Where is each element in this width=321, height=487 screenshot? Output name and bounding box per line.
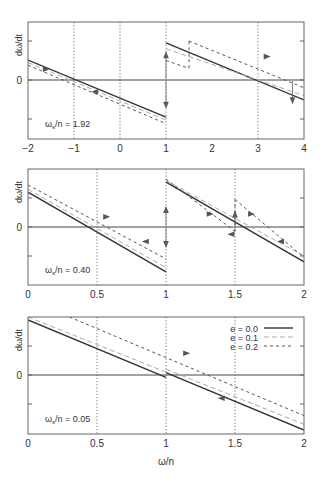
direction-arrow-icon <box>183 350 190 356</box>
series-line <box>166 369 304 424</box>
direction-arrow-icon <box>103 214 110 220</box>
series-line <box>189 41 304 88</box>
x-tick-label: 2 <box>209 143 215 154</box>
series-line <box>28 317 166 372</box>
panel-1: 0−2−101234dω/dtωs/n = 1.92 <box>14 22 307 154</box>
y-tick-label: 0 <box>16 75 22 86</box>
direction-arrow-icon <box>264 54 271 60</box>
y-axis-label: dω/dt <box>14 328 24 351</box>
legend-label: e = 0.2 <box>230 342 258 352</box>
series-line <box>28 65 166 124</box>
x-axis-label: ω/n <box>158 456 174 467</box>
series-line <box>28 185 166 259</box>
x-tick-label: −2 <box>22 143 34 154</box>
x-tick-label: 0 <box>25 289 31 300</box>
panel-3: 000.511.52dω/dtωs/n = 0.05e = 0.0e = 0.1… <box>14 317 307 449</box>
direction-arrow-icon <box>227 231 234 237</box>
x-tick-label: 1 <box>163 438 169 449</box>
x-tick-label: 1 <box>163 143 169 154</box>
x-tick-label: −1 <box>68 143 80 154</box>
legend: e = 0.0e = 0.1e = 0.2 <box>230 324 293 352</box>
x-tick-label: 0.5 <box>90 289 104 300</box>
y-tick-label: 0 <box>16 222 22 233</box>
y-axis-label: dω/dt <box>14 33 24 56</box>
x-tick-label: 0 <box>117 143 123 154</box>
parameter-annotation: ωs/n = 1.92 <box>45 119 90 130</box>
series-line <box>69 317 304 416</box>
annotation-rest: /n = 0.05 <box>55 414 90 424</box>
x-tick-label: 0 <box>25 438 31 449</box>
x-tick-label: 2 <box>301 289 307 300</box>
x-tick-label: 1 <box>163 289 169 300</box>
series-line <box>166 49 304 96</box>
parameter-annotation: ωs/n = 0.05 <box>45 414 90 425</box>
annotation-rest: /n = 0.40 <box>55 265 90 275</box>
figure: 0−2−101234dω/dtωs/n = 1.92 000.511.52dω/… <box>0 0 321 487</box>
x-tick-label: 0.5 <box>90 438 104 449</box>
annotation-rest: /n = 1.92 <box>55 119 90 129</box>
x-tick-label: 1.5 <box>228 289 242 300</box>
annotation-omega: ω <box>45 119 52 129</box>
parameter-annotation: ωs/n = 0.40 <box>45 265 90 276</box>
y-tick-label: 0 <box>16 370 22 381</box>
direction-arrow-icon <box>142 239 149 245</box>
annotation-omega: ω <box>45 265 52 275</box>
series-line <box>28 192 166 272</box>
annotation-omega: ω <box>45 414 52 424</box>
x-tick-label: 2 <box>301 438 307 449</box>
series-line <box>166 61 189 69</box>
panel-2: 000.511.52dω/dtωs/n = 0.40 <box>14 169 307 300</box>
x-tick-label: 4 <box>301 143 307 154</box>
x-tick-label: 3 <box>255 143 261 154</box>
series-line <box>166 43 304 100</box>
series-line <box>166 179 235 231</box>
y-axis-label: dω/dt <box>14 180 24 203</box>
x-tick-label: 1.5 <box>228 438 242 449</box>
